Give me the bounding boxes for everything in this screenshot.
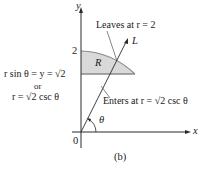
line-equation-1: r sin θ = y = √2 [4,69,66,79]
x-axis-label: x [193,126,198,137]
line-equation-or: or [34,82,42,91]
angle-label: θ [99,115,104,126]
line-equation-2: r = √2 csc θ [12,92,59,102]
y-tick-2-label: 2 [72,46,77,57]
region-r [81,51,135,74]
angle-arrow-icon [87,118,91,122]
y-axis-label: y [76,1,81,12]
origin-label: 0 [73,136,78,147]
figure-caption: (b) [114,152,126,163]
ray-label: L [132,36,138,47]
x-axis-arrow-icon [185,130,191,134]
angle-arc [88,119,96,132]
region-label: R [95,58,101,69]
enters-annotation: Enters at r = √2 csc θ [103,96,188,106]
ray-arrow-icon [124,38,128,44]
leaves-annotation: Leaves at r = 2 [96,20,156,30]
